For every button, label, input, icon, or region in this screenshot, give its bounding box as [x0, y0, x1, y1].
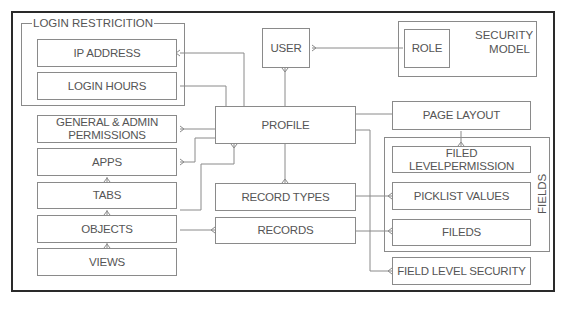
tabs-box[interactable]: TABS — [37, 182, 177, 209]
records-box[interactable]: RECORDS — [215, 217, 356, 244]
views-box[interactable]: VIEWS — [37, 248, 177, 276]
security-model-label-line2: MODEL — [474, 43, 531, 55]
security-model-label-line1: SECURITY — [474, 29, 531, 41]
filed-level-permission-box[interactable]: FILED LEVELPERMISSION — [392, 146, 531, 173]
fields-group-label: FIELDS — [536, 173, 548, 215]
picklist-values-box[interactable]: PICKLIST VALUES — [392, 182, 531, 210]
objects-box[interactable]: OBJECTS — [37, 215, 177, 243]
profile-box[interactable]: PROFILE — [215, 106, 356, 144]
general-admin-line1: GENERAL & ADMIN — [56, 116, 158, 129]
login-hours-box[interactable]: LOGIN HOURS — [37, 72, 177, 100]
general-admin-permissions-box[interactable]: GENERAL & ADMIN PERMISSIONS — [37, 115, 177, 143]
page-layout-box[interactable]: PAGE LAYOUT — [392, 101, 531, 130]
field-level-security-box[interactable]: FIELD LEVEL SECURITY — [392, 257, 531, 285]
apps-box[interactable]: APPS — [37, 148, 177, 176]
general-admin-line2: PERMISSIONS — [68, 129, 146, 142]
fileds-box[interactable]: FILEDS — [392, 219, 531, 246]
login-restriction-label: LOGIN RESTRICITION — [32, 17, 154, 29]
role-box[interactable]: ROLE — [404, 29, 450, 68]
user-box[interactable]: USER — [262, 28, 310, 68]
ip-address-box[interactable]: IP ADDRESS — [37, 39, 177, 67]
record-types-box[interactable]: RECORD TYPES — [215, 183, 356, 211]
